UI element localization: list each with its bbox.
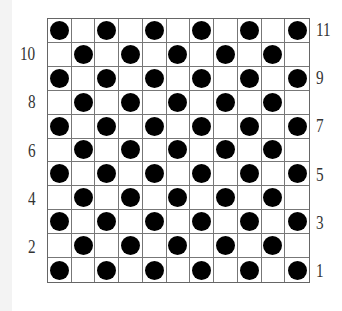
board-cell — [238, 210, 262, 234]
disc-icon — [240, 117, 259, 136]
board-cell — [262, 258, 286, 282]
board-cell — [285, 91, 309, 115]
disc-icon — [288, 117, 307, 136]
board-cell — [72, 43, 96, 67]
board-cell — [95, 91, 119, 115]
board-cell — [285, 186, 309, 210]
board-cell — [238, 67, 262, 91]
board-cell — [119, 234, 143, 258]
board-cell — [72, 210, 96, 234]
board-cell — [167, 258, 191, 282]
disc-icon — [97, 69, 116, 88]
board-cell — [119, 210, 143, 234]
checker-board — [47, 18, 310, 283]
board-cell — [190, 139, 214, 163]
board-cell — [48, 67, 72, 91]
board-cell — [48, 139, 72, 163]
board-cell — [190, 67, 214, 91]
board-cell — [262, 67, 286, 91]
disc-icon — [50, 164, 69, 183]
disc-icon — [145, 164, 164, 183]
row-label-left: 4 — [28, 189, 36, 208]
board-cell — [48, 162, 72, 186]
disc-icon — [168, 236, 187, 255]
board-cell — [238, 19, 262, 43]
board-cell — [190, 210, 214, 234]
board-cell — [72, 258, 96, 282]
board-cell — [214, 91, 238, 115]
disc-icon — [240, 21, 259, 40]
disc-icon — [50, 69, 69, 88]
board-cell — [143, 210, 167, 234]
disc-icon — [216, 188, 235, 207]
disc-icon — [145, 212, 164, 231]
disc-icon — [74, 140, 93, 159]
board-cell — [143, 162, 167, 186]
board-cell — [143, 91, 167, 115]
board-cell — [285, 139, 309, 163]
board-cell — [167, 91, 191, 115]
board-cell — [167, 186, 191, 210]
disc-icon — [168, 93, 187, 112]
disc-icon — [145, 21, 164, 40]
disc-icon — [263, 236, 282, 255]
row-label-right: 9 — [316, 68, 324, 87]
board-cell — [72, 115, 96, 139]
disc-icon — [50, 212, 69, 231]
board-cell — [214, 234, 238, 258]
board-cell — [119, 91, 143, 115]
disc-icon — [74, 93, 93, 112]
disc-icon — [50, 117, 69, 136]
board-cell — [72, 139, 96, 163]
board-cell — [119, 186, 143, 210]
board-cell — [72, 91, 96, 115]
board-cell — [214, 43, 238, 67]
board-cell — [119, 162, 143, 186]
disc-icon — [216, 45, 235, 64]
board-cell — [48, 43, 72, 67]
board-cell — [190, 162, 214, 186]
disc-icon — [192, 21, 211, 40]
board-cell — [285, 162, 309, 186]
board-cell — [48, 19, 72, 43]
board-cell — [167, 19, 191, 43]
board-cell — [214, 186, 238, 210]
board-cell — [190, 234, 214, 258]
row-label-right: 11 — [316, 20, 331, 39]
disc-icon — [192, 261, 211, 280]
board-cell — [262, 115, 286, 139]
board-cell — [72, 67, 96, 91]
board-cell — [262, 19, 286, 43]
board-cell — [48, 91, 72, 115]
board-cell — [190, 91, 214, 115]
board-cell — [214, 162, 238, 186]
board-cell — [95, 19, 119, 43]
board-cell — [48, 115, 72, 139]
disc-icon — [145, 117, 164, 136]
row-label-left: 8 — [28, 92, 36, 111]
board-cell — [214, 139, 238, 163]
board-cell — [119, 115, 143, 139]
row-label-right: 5 — [316, 165, 324, 184]
board-cell — [190, 258, 214, 282]
board-cell — [238, 186, 262, 210]
board-cell — [214, 258, 238, 282]
board-cell — [143, 139, 167, 163]
board-cell — [48, 186, 72, 210]
board-cell — [238, 162, 262, 186]
board-cell — [262, 43, 286, 67]
disc-icon — [168, 45, 187, 64]
disc-icon — [74, 188, 93, 207]
board-cell — [285, 19, 309, 43]
board-cell — [262, 91, 286, 115]
board-cell — [285, 210, 309, 234]
disc-icon — [145, 69, 164, 88]
board-cell — [190, 115, 214, 139]
board-cell — [143, 258, 167, 282]
board-cell — [262, 234, 286, 258]
disc-icon — [263, 140, 282, 159]
board-cell — [95, 186, 119, 210]
disc-icon — [192, 117, 211, 136]
board-cell — [285, 43, 309, 67]
disc-icon — [50, 21, 69, 40]
